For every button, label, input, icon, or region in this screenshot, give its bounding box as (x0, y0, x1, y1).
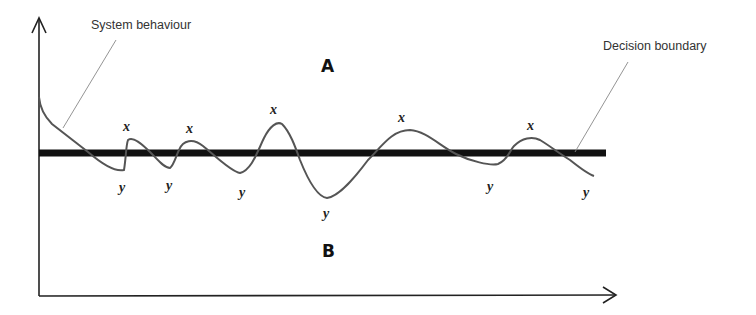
peak-label: x (269, 102, 277, 117)
trough-label: y (485, 179, 494, 194)
trough-label: y (321, 206, 330, 221)
trough-label: y (237, 185, 246, 200)
peak-label: x (185, 121, 193, 136)
peak-label: x (526, 118, 534, 133)
decision-boundary-label: Decision boundary (603, 39, 707, 53)
trough-label: y (581, 185, 590, 200)
diagram-canvas: System behaviour Decision boundary A B x… (0, 0, 756, 315)
trough-label: y (117, 180, 126, 195)
y-axis (32, 18, 46, 296)
region-a-label: A (321, 56, 335, 76)
decision-boundary-leader-line (575, 62, 628, 152)
system-behaviour-label: System behaviour (91, 18, 191, 32)
peak-label: x (122, 119, 130, 134)
system-behaviour-leader-line (63, 40, 116, 128)
peak-label: x (397, 110, 405, 125)
region-b-label: B (322, 241, 335, 261)
x-axis (39, 287, 616, 303)
trough-label: y (164, 178, 173, 193)
